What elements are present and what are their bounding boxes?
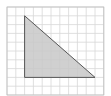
grid-diagram bbox=[0, 0, 111, 96]
